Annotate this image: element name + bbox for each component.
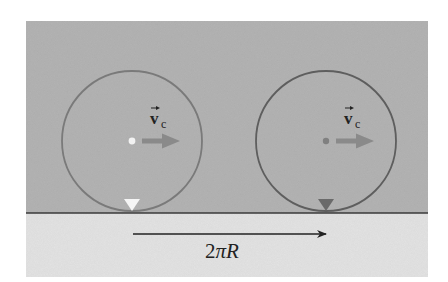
velocity-symbol: v — [150, 109, 159, 128]
velocity-symbol: v — [344, 109, 353, 128]
distance-label: 2πR — [205, 239, 239, 263]
velocity-subscript: c — [355, 117, 360, 131]
center-dot-right — [323, 138, 329, 144]
distance-coefficient: 2 — [205, 239, 216, 263]
rolling-wheel-diagram: v c v c 2πR — [0, 0, 448, 282]
sky-region — [26, 21, 428, 213]
distance-pi-symbol: π — [216, 239, 227, 263]
velocity-subscript: c — [161, 117, 166, 131]
distance-radius-variable: R — [225, 239, 239, 263]
center-dot-left — [129, 138, 136, 145]
